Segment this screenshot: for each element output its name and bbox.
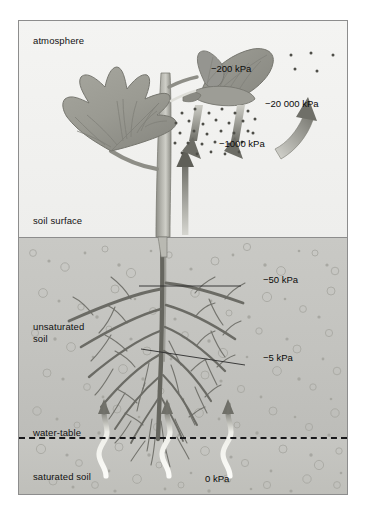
value-upper-root-potential: −50 kPa <box>263 274 298 285</box>
value-water-table-potential: 0 kPa <box>205 473 229 484</box>
leaf-upper-right <box>171 49 273 106</box>
value-lower-root-potential: −5 kPa <box>263 352 293 363</box>
value-air-potential: −20 000 kPa <box>265 98 319 109</box>
label-water-table: water-table <box>33 427 81 439</box>
label-atmosphere: atmosphere <box>33 35 84 47</box>
label-saturated-soil: saturated soil <box>33 471 91 483</box>
value-leaf-potential: −200 kPa <box>211 63 251 74</box>
xylem-flow-arrow <box>176 147 194 235</box>
diagram-canvas: atmosphere soil surface unsaturated soil… <box>0 0 365 517</box>
diagram-artwork <box>19 21 347 494</box>
value-vapour-potential: −1000 kPa <box>219 138 265 149</box>
diagram-frame: atmosphere soil surface unsaturated soil… <box>18 20 348 495</box>
label-unsaturated-soil: unsaturated soil <box>33 321 84 344</box>
atmosphere-dots <box>290 52 335 73</box>
label-soil-surface: soil surface <box>33 215 82 227</box>
